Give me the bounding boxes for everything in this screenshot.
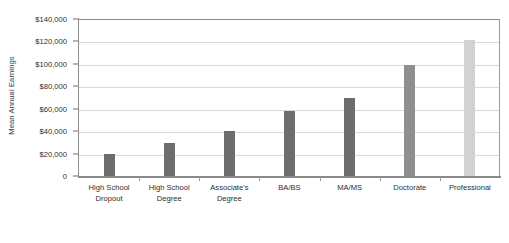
bar <box>284 111 295 176</box>
x-axis-tick-mark <box>320 177 321 181</box>
x-axis-category-label-line1: High School <box>89 183 130 192</box>
bar <box>224 131 235 176</box>
x-axis-category-label-line1: Professional <box>449 183 491 192</box>
x-axis-category-label-line2: Dropout <box>79 194 139 205</box>
x-axis-tick-marks <box>79 177 500 182</box>
x-axis-category-label-line2: Degree <box>139 194 199 205</box>
x-axis-category-labels: High SchoolDropoutHigh SchoolDegreeAssoc… <box>79 183 500 223</box>
y-axis-tick-label: $80,000 <box>40 82 67 91</box>
y-axis-tick-label: $20,000 <box>40 149 67 158</box>
y-axis-tick-label: $60,000 <box>40 104 67 113</box>
x-axis-category-label-line2: Degree <box>199 194 259 205</box>
bar <box>104 154 115 176</box>
bars-layer <box>79 19 500 176</box>
x-axis-tick-mark <box>259 177 260 181</box>
x-axis-tick-mark <box>139 177 140 181</box>
x-axis-category-label: High SchoolDropout <box>79 183 139 204</box>
x-axis-category-label: Professional <box>440 183 500 194</box>
bar <box>404 65 415 176</box>
y-axis-tick-labels: $140,000$120,000$100,000$80,000$60,000$4… <box>22 19 73 176</box>
bar <box>164 143 175 176</box>
x-axis-category-label-line1: BA/BS <box>278 183 300 192</box>
x-axis-category-label: High SchoolDegree <box>139 183 199 204</box>
x-axis-tick-mark <box>199 177 200 181</box>
x-axis-category-label-line1: MA/MS <box>337 183 362 192</box>
y-axis-title: Mean Annual Earnings <box>0 0 22 190</box>
x-axis-category-label-line1: High School <box>149 183 190 192</box>
y-axis-tick-label: $100,000 <box>35 59 67 68</box>
x-axis-category-label: MA/MS <box>320 183 380 194</box>
y-axis-tick-label: $140,000 <box>35 15 67 24</box>
x-axis-category-label-line1: Associate's <box>210 183 248 192</box>
chart-screenshot: Mean Annual Earnings $140,000$120,000$10… <box>0 0 509 243</box>
x-axis-tick-mark <box>440 177 441 181</box>
y-axis-tick-label: $120,000 <box>35 37 67 46</box>
x-axis-category-label-line1: Doctorate <box>393 183 426 192</box>
x-axis-category-label: Doctorate <box>380 183 440 194</box>
y-axis-tick-label: $40,000 <box>40 127 67 136</box>
y-axis-tick-label: 0 <box>63 172 67 181</box>
x-axis-category-label: Associate'sDegree <box>199 183 259 204</box>
x-axis-tick-mark <box>380 177 381 181</box>
bar <box>344 98 355 177</box>
y-axis-title-text: Mean Annual Earnings <box>7 56 16 134</box>
x-axis-category-label: BA/BS <box>259 183 319 194</box>
bar <box>464 40 475 176</box>
